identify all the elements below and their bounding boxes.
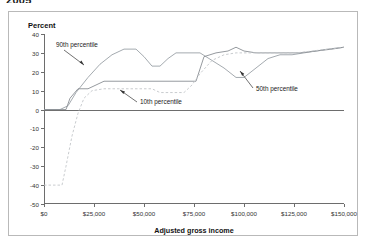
y-tick-label: -20 — [17, 144, 39, 151]
y-tick-label: 40 — [17, 31, 39, 38]
y-tick-label: 10 — [17, 87, 39, 94]
x-tick-mark — [194, 204, 195, 207]
y-tick-label: 20 — [17, 68, 39, 75]
x-tick-mark — [44, 204, 45, 207]
x-tick-label: $125,000 — [281, 210, 307, 217]
series-line-90th-percentile — [44, 47, 344, 109]
x-tick-label: $0 — [41, 210, 48, 217]
x-tick-label: $75,000 — [183, 210, 205, 217]
plot-area: 403020100-10-20-30-40-50 — [44, 34, 344, 204]
series-layer — [44, 34, 344, 204]
y-axis-title: Percent — [28, 21, 56, 30]
annotation-50th-percentile: 50th percentile — [256, 85, 298, 92]
x-tick-label: $50,000 — [133, 210, 155, 217]
y-tick-label: 30 — [17, 49, 39, 56]
x-tick-mark — [144, 204, 145, 207]
x-tick-mark — [294, 204, 295, 207]
x-tick-label: $150,000 — [331, 210, 357, 217]
x-tick-mark — [344, 204, 345, 207]
y-tick-label: -50 — [17, 201, 39, 208]
series-line-10th-percentile — [44, 47, 344, 185]
y-tick-label: -10 — [17, 125, 39, 132]
year-caption: 2005 — [6, 0, 32, 3]
x-tick-mark — [244, 204, 245, 207]
y-tick-label: -30 — [17, 163, 39, 170]
chart-figure: 2005 Percent 403020100-10-20-30-40-50 $0… — [0, 0, 367, 244]
series-line-50th-percentile — [44, 47, 344, 109]
x-tick-label: $25,000 — [83, 210, 105, 217]
y-tick-label: 0 — [17, 106, 39, 113]
x-axis-title: Adjusted gross income — [44, 226, 344, 235]
annotation-10th-percentile: 10th percentile — [140, 98, 182, 105]
annotation-90th-percentile: 90th percentile — [56, 41, 98, 48]
x-tick-mark — [94, 204, 95, 207]
y-tick-label: -40 — [17, 182, 39, 189]
x-tick-label: $100,000 — [231, 210, 257, 217]
